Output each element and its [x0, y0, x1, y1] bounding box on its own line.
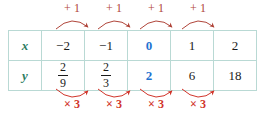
variable-label-x: x: [9, 39, 41, 52]
bottom-annotation-1: × 3: [93, 98, 135, 110]
cell-value: 18: [214, 69, 256, 82]
top-annotation-1: + 1: [93, 2, 135, 14]
cell-x-1: −1: [85, 31, 128, 61]
cell-y-2: 2: [128, 61, 171, 91]
top-annotation-0: + 1: [51, 2, 93, 14]
function-table: x −2 −1 0 1 2 y 2 9: [8, 30, 250, 88]
bottom-annotation-label: × 3: [106, 97, 122, 111]
bottom-annotation-3: × 3: [177, 98, 219, 110]
bottom-annotation-label: × 3: [148, 97, 164, 111]
cell-y-3: 6: [171, 61, 214, 91]
cell-value: 6: [171, 69, 213, 82]
table: x −2 −1 0 1 2 y 2 9: [8, 30, 257, 91]
cell-value-highlight: 0: [128, 39, 170, 52]
cell-y-0: 2 9: [42, 61, 85, 91]
row-header-x: x: [9, 31, 42, 61]
top-annotation-label: + 1: [190, 1, 206, 15]
bottom-annotation-label: × 3: [64, 97, 80, 111]
bottom-annotation-0: × 3: [51, 98, 93, 110]
table-row-x: x −2 −1 0 1 2: [9, 31, 257, 61]
fraction: 2 9: [58, 61, 68, 89]
top-arrow-3: [182, 21, 214, 29]
top-annotation-3: + 1: [177, 2, 219, 14]
top-annotation-2: + 1: [135, 2, 177, 14]
top-arrows: [56, 21, 214, 29]
cell-value: 2: [214, 39, 256, 52]
top-arrow-2: [140, 21, 172, 29]
fraction-numerator: 2: [101, 61, 111, 76]
variable-label-y: y: [9, 69, 41, 82]
top-arrow-0: [56, 21, 88, 29]
cell-x-3: 1: [171, 31, 214, 61]
bottom-annotation-2: × 3: [135, 98, 177, 110]
table-row-y: y 2 9 2 3 2 6 18: [9, 61, 257, 91]
top-arrow-1: [98, 21, 130, 29]
top-annotation-label: + 1: [106, 1, 122, 15]
cell-value-highlight: 2: [128, 69, 170, 82]
top-annotation-label: + 1: [64, 1, 80, 15]
bottom-annotation-label: × 3: [190, 97, 206, 111]
figure-root: + 1 + 1 + 1 + 1 × 3 × 3 × 3 × 3 x −2 −1 …: [0, 0, 263, 118]
cell-x-0: −2: [42, 31, 85, 61]
cell-y-4: 18: [214, 61, 257, 91]
fraction: 2 3: [101, 61, 111, 89]
fraction-numerator: 2: [58, 61, 68, 76]
row-header-y: y: [9, 61, 42, 91]
cell-value: 1: [171, 39, 213, 52]
cell-x-2: 0: [128, 31, 171, 61]
cell-y-1: 2 3: [85, 61, 128, 91]
fraction-denominator: 9: [58, 76, 68, 90]
cell-value: −2: [42, 39, 84, 52]
fraction-denominator: 3: [101, 76, 111, 90]
cell-value: −1: [85, 39, 127, 52]
top-annotation-label: + 1: [148, 1, 164, 15]
cell-x-4: 2: [214, 31, 257, 61]
